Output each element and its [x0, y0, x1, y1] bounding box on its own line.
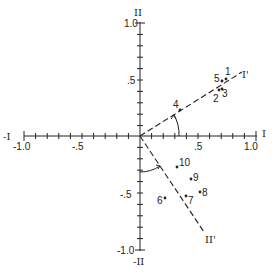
axis-label-ii-prime: II'	[205, 234, 216, 245]
tick-label-x-05: .5	[194, 141, 203, 152]
point-1	[225, 78, 228, 81]
axis-label-y-pos: II	[134, 7, 142, 18]
point-10	[176, 166, 179, 169]
point-label-6: 6	[157, 195, 163, 206]
point-7	[185, 195, 188, 198]
factor-plot: -1.0 -.5 .5 1.0 1.0 .5 -.5 -1.0 I -I II …	[0, 0, 276, 276]
tick-label-x-neg1: -1.0	[13, 141, 31, 152]
point-label-10: 10	[179, 157, 191, 168]
axis-label-y-neg: -II	[133, 256, 144, 267]
tick-label-x-neg05: -.5	[72, 141, 84, 152]
point-9	[190, 178, 193, 181]
point-label-8: 8	[202, 187, 208, 198]
point-label-7: 7	[188, 195, 194, 206]
point-label-2: 2	[213, 93, 219, 104]
axis-label-x-pos: I	[262, 128, 266, 139]
axis-label-x-neg: -I	[3, 131, 10, 142]
point-label-1: 1	[225, 66, 231, 77]
tick-label-y-1: 1.0	[124, 18, 138, 29]
rotated-axis-i-prime	[140, 72, 242, 136]
tick-label-y-neg05: -.5	[120, 189, 132, 200]
point-5	[221, 80, 224, 83]
point-4	[179, 109, 182, 112]
point-label-9: 9	[193, 172, 199, 183]
rotation-arc-upper	[174, 115, 179, 136]
tick-label-x-1: 1.0	[244, 141, 258, 152]
axis-label-i-prime: I'	[242, 69, 249, 80]
point-label-4: 4	[173, 99, 179, 110]
point-label-3: 3	[222, 88, 228, 99]
point-8	[199, 191, 202, 194]
point-2	[218, 89, 221, 92]
rotation-arc-lower	[140, 166, 160, 172]
tick-label-y-05: .5	[127, 75, 136, 86]
tick-label-y-neg1: -1.0	[117, 245, 135, 256]
point-6	[164, 197, 167, 200]
point-label-5: 5	[214, 73, 220, 84]
